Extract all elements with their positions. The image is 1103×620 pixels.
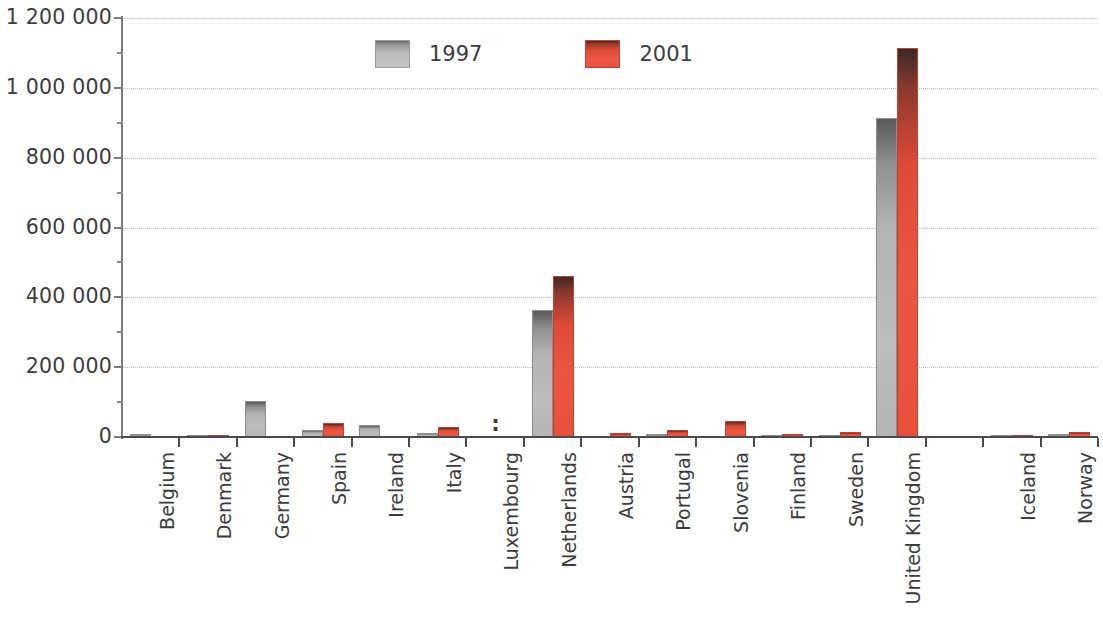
x-tick-label: Luxembourg: [502, 452, 521, 570]
x-label-slot: Portugal: [674, 452, 675, 453]
x-tick-mark: [178, 438, 180, 447]
y-tick-label: 200 000: [0, 356, 112, 377]
gridline: [122, 228, 1098, 229]
gridline: [122, 367, 1098, 368]
bar-2001: [897, 48, 918, 437]
x-tick-label: Portugal: [674, 452, 693, 531]
x-tick-label: Belgium: [158, 452, 177, 530]
gridline: [122, 158, 1098, 159]
y-minor-tick-mark: [117, 331, 123, 333]
x-label-slot: Luxembourg: [502, 452, 503, 453]
y-tick-label: 400 000: [0, 286, 112, 307]
bar-2001: [725, 421, 746, 437]
x-tick-mark: [408, 438, 410, 447]
gridline: [122, 88, 1098, 89]
bar-1997: [532, 310, 553, 437]
y-minor-tick-mark: [117, 122, 123, 124]
x-label-slot: Finland: [789, 452, 790, 453]
x-label-slot: Belgium: [158, 452, 159, 453]
x-tick-label: Sweden: [847, 452, 866, 527]
x-tick-mark: [695, 438, 697, 447]
y-tick-mark: [114, 87, 123, 89]
x-tick-mark: [867, 438, 869, 447]
y-tick-mark: [114, 17, 123, 19]
x-label-slot: Austria: [617, 452, 618, 453]
chart-legend: 1997 2001: [375, 40, 693, 68]
x-axis-line: [121, 436, 1098, 438]
x-tick-label: Austria: [617, 452, 636, 519]
y-tick-mark: [114, 227, 123, 229]
x-tick-label: Slovenia: [732, 452, 751, 533]
x-label-slot: Spain: [330, 452, 331, 453]
x-tick-label: Italy: [445, 452, 464, 493]
x-tick-mark: [1097, 438, 1099, 447]
not-available-marker: :: [491, 414, 499, 435]
x-tick-label: Iceland: [1019, 452, 1038, 521]
x-tick-label: Finland: [789, 452, 808, 520]
x-label-slot: Slovenia: [732, 452, 733, 453]
x-label-slot: Ireland: [387, 452, 388, 453]
x-tick-label: Denmark: [215, 452, 234, 539]
x-tick-mark: [465, 438, 467, 447]
y-minor-tick-mark: [117, 192, 123, 194]
x-tick-label: Ireland: [387, 452, 406, 518]
y-minor-tick-mark: [117, 401, 123, 403]
x-tick-mark: [580, 438, 582, 447]
y-tick-mark: [114, 296, 123, 298]
gridline: [122, 297, 1098, 298]
legend-swatch-1997-icon: [375, 40, 410, 68]
y-tick-label: 800 000: [0, 147, 112, 168]
x-tick-mark: [810, 438, 812, 447]
x-label-slot: Iceland: [1019, 452, 1020, 453]
x-tick-mark: [925, 438, 927, 447]
y-tick-label: 600 000: [0, 217, 112, 238]
y-tick-mark: [114, 157, 123, 159]
x-tick-mark: [523, 438, 525, 447]
bar-chart: : 0200 000400 000600 000800 0001 000 000…: [0, 0, 1103, 620]
x-tick-label: Netherlands: [560, 452, 579, 568]
x-tick-label: United Kingdom: [904, 452, 923, 605]
legend-swatch-2001-icon: [585, 40, 620, 68]
x-tick-mark: [753, 438, 755, 447]
x-tick-label: Spain: [330, 452, 349, 505]
y-minor-tick-mark: [117, 52, 123, 54]
bar-1997: [245, 401, 266, 437]
x-tick-mark: [236, 438, 238, 447]
x-tick-mark: [1040, 438, 1042, 447]
x-tick-label: Germany: [273, 452, 292, 539]
bar-2001: [323, 423, 344, 437]
x-label-slot: Netherlands: [560, 452, 561, 453]
x-tick-mark: [638, 438, 640, 447]
plot-area: :: [122, 18, 1098, 437]
x-tick-label: Norway: [1076, 452, 1095, 524]
x-label-slot: Denmark: [215, 452, 216, 453]
x-label-slot: Sweden: [847, 452, 848, 453]
x-tick-mark: [982, 438, 984, 447]
x-label-slot: Italy: [445, 452, 446, 453]
y-tick-label: 1 000 000: [0, 77, 112, 98]
gridline: [122, 18, 1098, 19]
bar-2001: [553, 276, 574, 437]
legend-item-2001: 2001: [585, 40, 692, 68]
y-tick-mark: [114, 366, 123, 368]
legend-item-1997: 1997: [375, 40, 482, 68]
y-tick-label: 0: [0, 426, 112, 447]
legend-label-2001: 2001: [639, 44, 692, 65]
y-tick-label: 1 200 000: [0, 7, 112, 28]
x-label-slot: United Kingdom: [904, 452, 905, 453]
legend-label-1997: 1997: [429, 44, 482, 65]
bar-1997: [876, 118, 897, 437]
x-tick-mark: [351, 438, 353, 447]
x-label-slot: Germany: [273, 452, 274, 453]
y-minor-tick-mark: [117, 261, 123, 263]
x-tick-mark: [293, 438, 295, 447]
x-label-slot: Norway: [1076, 452, 1077, 453]
